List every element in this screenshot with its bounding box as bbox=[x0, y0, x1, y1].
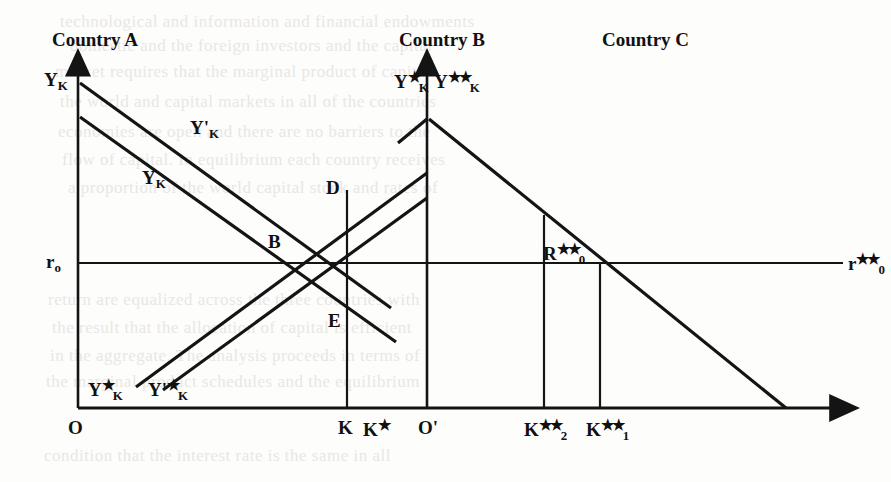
y-k-star-prime-schedule bbox=[163, 198, 427, 390]
point-d: D bbox=[326, 178, 340, 197]
tick-k: K bbox=[338, 418, 353, 437]
point-e: E bbox=[328, 311, 341, 330]
y-k-doublestar-center-axis: Y★★K bbox=[434, 70, 480, 95]
r0-doublestar-right: r★★0 bbox=[848, 252, 885, 277]
y-k-star-center-axis: Y★K bbox=[394, 70, 429, 95]
y-k-curve: YK bbox=[142, 168, 166, 191]
point-b: B bbox=[268, 232, 281, 251]
y-k-star-schedule bbox=[136, 173, 427, 387]
country-b: Country B bbox=[399, 30, 485, 49]
y-k-star-curve: Y★K bbox=[88, 378, 123, 403]
tick-k1-doublestar: K★★1 bbox=[586, 418, 629, 443]
figure-canvas: technological and information and financ… bbox=[0, 0, 891, 482]
country-c: Country C bbox=[602, 30, 689, 49]
origin-o: O bbox=[68, 418, 83, 437]
country-b-apex-left-segment bbox=[398, 119, 427, 143]
y-k-prime-curve: Y'K bbox=[190, 118, 219, 141]
y-k-left-axis: YK bbox=[44, 70, 68, 93]
point-r0-doublestar: R★★0 bbox=[543, 242, 585, 267]
tick-k2-doublestar: K★★2 bbox=[524, 418, 567, 443]
r0-left: ro bbox=[46, 252, 61, 275]
country-a: Country A bbox=[52, 30, 138, 49]
tick-k-star: K★ bbox=[363, 418, 389, 439]
origin-o-prime: O' bbox=[418, 418, 438, 437]
y-k-star-prime-curve: Y'★K bbox=[148, 378, 188, 403]
y-k-prime-schedule bbox=[80, 83, 391, 308]
